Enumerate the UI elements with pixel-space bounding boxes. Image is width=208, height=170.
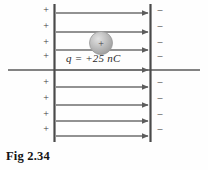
- figure-container: + + + + + + + + – – – – – – – – + q = +2…: [0, 0, 208, 170]
- plate-charge-sign: –: [157, 36, 164, 47]
- diagram-background: [0, 0, 208, 170]
- plate-charge-sign: –: [157, 20, 164, 31]
- figure-caption: Fig 2.34: [6, 149, 50, 164]
- plate-charge-sign: +: [43, 20, 49, 31]
- plate-charge-sign: +: [43, 50, 49, 61]
- plate-charge-sign: –: [157, 4, 164, 15]
- plate-charge-sign: –: [157, 123, 164, 134]
- sphere-plus-sign: +: [98, 38, 104, 49]
- plate-charge-sign: –: [157, 92, 164, 103]
- plate-charge-sign: +: [43, 76, 49, 87]
- field-diagram-svg: + + + + + + + + – – – – – – – – +: [0, 0, 208, 170]
- plate-charge-sign: +: [43, 92, 49, 103]
- plate-charge-sign: –: [157, 108, 164, 119]
- plate-charge-sign: –: [157, 50, 164, 61]
- plate-charge-sign: +: [43, 108, 49, 119]
- plate-charge-sign: +: [43, 123, 49, 134]
- charge-value-label: q = +25 nC: [66, 52, 120, 64]
- plate-charge-sign: +: [43, 4, 49, 15]
- plate-charge-sign: –: [157, 76, 164, 87]
- plate-charge-sign: +: [43, 36, 49, 47]
